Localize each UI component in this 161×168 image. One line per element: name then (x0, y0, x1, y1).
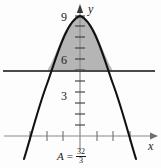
area-value-label: A = 32 3 (57, 148, 86, 166)
area-fraction-numerator: 32 (76, 148, 86, 156)
area-between-curves-figure: 9 6 3 y x A = 32 3 (0, 0, 161, 168)
area-equals-sign: = (67, 151, 73, 162)
area-fraction-denominator: 3 (78, 157, 84, 165)
y-axis-label: y (88, 3, 93, 15)
y-tick-label-3: 3 (61, 90, 67, 102)
area-symbol: A (57, 151, 64, 162)
y-axis-arrow (77, 4, 83, 13)
y-tick-label-9: 9 (61, 11, 67, 23)
y-tick-label-6: 6 (61, 54, 67, 66)
plot-canvas (0, 0, 161, 168)
x-axis-label: x (148, 140, 153, 152)
area-fraction: 32 3 (76, 148, 86, 166)
